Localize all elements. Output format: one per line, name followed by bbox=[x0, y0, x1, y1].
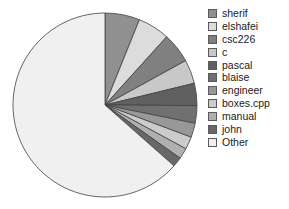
chart-legend: sherifelshafeicsc226cpascalblaiseenginee… bbox=[208, 7, 289, 149]
legend-swatch-icon bbox=[208, 9, 217, 18]
legend-swatch-icon bbox=[208, 112, 217, 121]
legend-item-label: Other bbox=[222, 137, 248, 148]
legend-item[interactable]: engineer bbox=[208, 84, 289, 97]
legend-item-label: blaise bbox=[222, 72, 249, 83]
legend-item[interactable]: sherif bbox=[208, 7, 289, 20]
legend-item-label: csc226 bbox=[222, 34, 255, 45]
legend-swatch-icon bbox=[208, 125, 217, 134]
legend-item[interactable]: csc226 bbox=[208, 33, 289, 46]
legend-item[interactable]: blaise bbox=[208, 71, 289, 84]
legend-item-label: manual bbox=[222, 111, 256, 122]
legend-item-label: elshafei bbox=[222, 21, 258, 32]
legend-item-label: boxes.cpp bbox=[222, 98, 270, 109]
legend-swatch-icon bbox=[208, 86, 217, 95]
legend-item[interactable]: pascal bbox=[208, 59, 289, 72]
legend-swatch-icon bbox=[208, 35, 217, 44]
legend-item-label: engineer bbox=[222, 85, 263, 96]
pie-plot-area bbox=[0, 0, 200, 209]
legend-item-label: sherif bbox=[222, 8, 248, 19]
legend-item[interactable]: manual bbox=[208, 110, 289, 123]
pie-chart-figure: sherifelshafeicsc226cpascalblaiseenginee… bbox=[0, 0, 289, 209]
legend-swatch-icon bbox=[208, 73, 217, 82]
pie-svg bbox=[0, 0, 200, 209]
legend-item-label: john bbox=[222, 124, 242, 135]
legend-item-label: pascal bbox=[222, 60, 252, 71]
legend-item[interactable]: john bbox=[208, 123, 289, 136]
legend-swatch-icon bbox=[208, 22, 217, 31]
legend-item-label: c bbox=[222, 47, 227, 58]
legend-swatch-icon bbox=[208, 61, 217, 70]
legend-swatch-icon bbox=[208, 138, 217, 147]
legend-swatch-icon bbox=[208, 48, 217, 57]
legend-item[interactable]: boxes.cpp bbox=[208, 97, 289, 110]
legend-item[interactable]: elshafei bbox=[208, 20, 289, 33]
legend-swatch-icon bbox=[208, 99, 217, 108]
legend-item[interactable]: c bbox=[208, 46, 289, 59]
legend-item[interactable]: Other bbox=[208, 136, 289, 149]
